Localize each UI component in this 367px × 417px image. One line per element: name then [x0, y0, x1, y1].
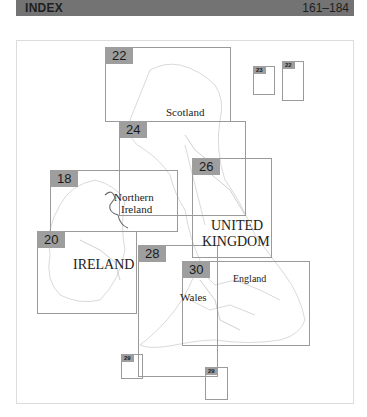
map-sheet-22-inset[interactable]: 22 [282, 61, 304, 101]
sheet-number: 22 [105, 47, 133, 64]
region-label-northern-ireland-line1: Northern [114, 191, 154, 203]
sheet-number: 29 [205, 367, 218, 375]
map-sheet-23[interactable]: 23 [253, 66, 275, 95]
map-sheet-29-scilly[interactable]: 29 [121, 354, 143, 379]
region-label-uk-line1: UNITED [211, 218, 263, 234]
region-label-england: England [233, 273, 266, 284]
sheet-number: 24 [119, 121, 147, 138]
map-sheet-29-channel[interactable]: 29 [205, 367, 228, 400]
region-label-wales: Wales [180, 291, 207, 303]
region-label-scotland: Scotland [166, 106, 205, 118]
sheet-number: 22 [282, 61, 295, 69]
region-label-ireland: IRELAND [73, 257, 134, 273]
sheet-number: 28 [138, 245, 166, 262]
sheet-number: 23 [253, 66, 266, 74]
region-label-northern-ireland-line2: Ireland [121, 203, 152, 215]
region-label-uk-line2: KINGDOM [202, 234, 270, 250]
sheet-number: 29 [121, 354, 134, 362]
sheet-number: 20 [37, 231, 65, 248]
sheet-number: 18 [50, 170, 78, 187]
sheet-number: 26 [192, 158, 220, 175]
sheet-number: 30 [182, 261, 210, 278]
